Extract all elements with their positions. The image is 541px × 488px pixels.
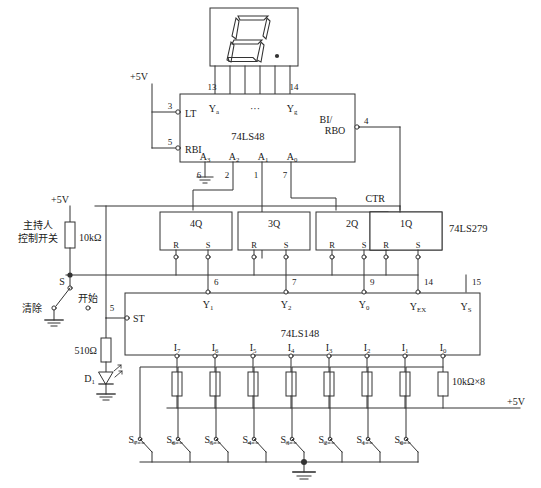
- host-control-caption-line1: 主持人: [23, 219, 53, 231]
- decoder-bi-label: BI/: [320, 114, 333, 125]
- pin-terminal-yex: [416, 290, 420, 294]
- flipflop-3q-r-label: R: [251, 240, 257, 250]
- seven-segment-display: [210, 8, 298, 66]
- switch-label-s2: S2: [319, 434, 329, 446]
- switch-label-s4: S4: [243, 434, 253, 446]
- pin-number-13: 13: [208, 82, 218, 92]
- flipflop-2q-s-label: S: [362, 240, 367, 250]
- pullup-10k-resistor: [65, 222, 75, 248]
- pin-number-yex: 14: [424, 277, 434, 287]
- latch-pin-stubs: [176, 250, 418, 256]
- pin-terminal-3q-r: [252, 255, 256, 259]
- flipflop-label-1q: 1Q: [400, 218, 413, 229]
- switch-contact-start: [86, 306, 90, 310]
- pin-terminal-4q-r: [174, 255, 178, 259]
- host-control-caption-line2: 控制开关: [18, 232, 58, 244]
- pin-number-6: 6: [197, 170, 202, 180]
- switch-label-s3: S3: [281, 434, 291, 446]
- pin-number-7: 7: [283, 170, 288, 180]
- pin-number-y2: 7: [292, 277, 297, 287]
- resistor-510: [101, 338, 111, 362]
- switch-blade: [56, 288, 70, 306]
- led-branch: [97, 318, 122, 400]
- flipflop-label-2q: 2Q: [346, 218, 359, 229]
- junction-dot-reset: [67, 272, 72, 277]
- flipflop-3q-s-label: S: [284, 240, 289, 250]
- pin-terminal-2q-s: [362, 255, 366, 259]
- switch-bank-ground-symbol: [293, 462, 315, 479]
- a0-wire: [291, 162, 336, 210]
- supply-label-bottom: +5V: [507, 396, 526, 407]
- pullup-10k-label: 10kΩ: [79, 232, 101, 243]
- pin-terminal-1q-r: [384, 255, 388, 259]
- switch-label-s1: S1: [357, 434, 366, 446]
- pin-terminal-2q-r: [330, 255, 334, 259]
- schematic-svg: +5V +5V +5V 13 14 Ya ··· Yg 3 LT 5 RBI B…: [0, 0, 541, 488]
- host-position-clear-label: 清除: [22, 302, 42, 314]
- pin-terminal-lt: [176, 110, 180, 114]
- pin-number-5: 5: [168, 137, 173, 147]
- flipflop-label-3q: 3Q: [268, 218, 281, 229]
- pin-number-1: 1: [254, 170, 259, 180]
- host-switch-label: S: [59, 276, 65, 287]
- pin-terminal-4q-s: [206, 255, 210, 259]
- supply-label-top: +5V: [130, 71, 149, 82]
- pin-terminal-1q-s: [416, 255, 420, 259]
- pin-terminal-rbi: [176, 146, 180, 150]
- flipflop-label-4q: 4Q: [190, 218, 203, 229]
- pin-terminal-3q-s: [284, 255, 288, 259]
- pin-number-st: 5: [110, 303, 115, 313]
- pin-terminal-y0: [362, 290, 366, 294]
- decoder-chip-label: 74LS48: [231, 131, 264, 142]
- encoder-st-label: ST: [133, 313, 145, 324]
- pin-number-3: 3: [168, 101, 173, 111]
- switch-label-s6: S6: [167, 434, 177, 446]
- pin-number-2: 2: [225, 170, 230, 180]
- switch-branch-wires: [140, 367, 443, 437]
- flipflop-1q-s-label: S: [416, 240, 421, 250]
- led-diode-symbol: [99, 372, 113, 384]
- switch-label-s7: S7: [129, 434, 139, 446]
- decoder-lt-label: LT: [185, 108, 196, 119]
- flipflop-4q-r-label: R: [173, 240, 179, 250]
- resistor-510-label: 510Ω: [75, 345, 97, 356]
- decoder-output-ellipsis: ···: [250, 103, 260, 114]
- pin-number-y1: 6: [214, 277, 219, 287]
- pin-terminal-y1: [206, 290, 210, 294]
- switch-label-s5: S5: [205, 434, 215, 446]
- pin-number-4: 4: [364, 116, 369, 126]
- pin-number-14: 14: [290, 82, 300, 92]
- encoder-chip-label: 74LS148: [281, 328, 320, 339]
- diode-d1-label: D1: [84, 373, 95, 385]
- circuit-diagram-canvas: +5V +5V +5V 13 14 Ya ··· Yg 3 LT 5 RBI B…: [0, 0, 541, 488]
- clear-ground-symbol: [45, 310, 63, 326]
- flipflop-2q-r-label: R: [329, 240, 335, 250]
- pin-terminal-y2: [284, 290, 288, 294]
- pushbutton-switch-bank[interactable]: [134, 437, 418, 462]
- supply-5v-decoder: [152, 84, 176, 148]
- pin-number-ys: 15: [472, 277, 482, 287]
- switch-contact-clear: [52, 306, 56, 310]
- decimal-point-icon: [275, 54, 279, 58]
- decoder-rbo-label: RBO: [325, 125, 346, 136]
- flipflop-1q-r-label: R: [383, 240, 389, 250]
- host-position-start-label: 开始: [78, 292, 98, 304]
- flipflop-4q-s-label: S: [206, 240, 211, 250]
- encoder-74ls148-body: [125, 293, 480, 355]
- pullup-bank-label: 10kΩ×8: [452, 376, 485, 387]
- pin-number-y0: 9: [370, 277, 375, 287]
- latch-chip-label: 74LS279: [449, 223, 488, 234]
- ctr-label: CTR: [366, 193, 386, 204]
- supply-label-host: +5V: [51, 194, 70, 205]
- display-segment-wires: [215, 66, 290, 94]
- switch-label-s0: S0: [395, 434, 405, 446]
